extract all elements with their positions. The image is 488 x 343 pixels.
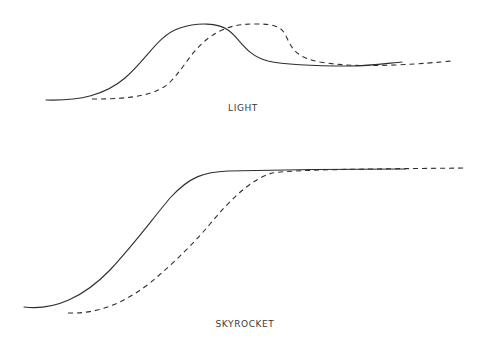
diagram-canvas <box>0 0 488 343</box>
skyrocket-dashed-curve <box>68 168 466 313</box>
skyrocket-solid-curve <box>24 169 405 308</box>
light-label: LIGHT <box>228 103 258 113</box>
panel-light <box>46 24 452 100</box>
panel-skyrocket <box>24 168 466 313</box>
skyrocket-label: SKYROCKET <box>216 319 275 329</box>
light-solid-curve <box>46 24 402 100</box>
